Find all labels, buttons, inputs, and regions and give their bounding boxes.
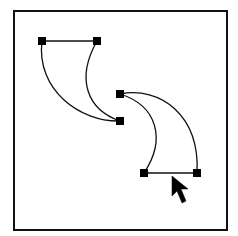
path-2-outer-curve (120, 93, 197, 173)
path-2[interactable] (120, 93, 197, 173)
anchor-point[interactable] (116, 90, 124, 98)
diagram-canvas (0, 0, 238, 236)
path-2-anchors[interactable] (116, 90, 201, 177)
anchor-point[interactable] (116, 117, 124, 125)
path-1-outer-curve (41, 41, 120, 121)
anchor-point[interactable] (38, 37, 46, 45)
anchor-point[interactable] (193, 169, 201, 177)
anchor-point[interactable] (93, 37, 101, 45)
anchor-point[interactable] (140, 169, 148, 177)
arrow-pointer-icon (172, 176, 188, 203)
path-1[interactable] (41, 41, 120, 121)
path-2-inner-curve (120, 94, 156, 173)
path-1-inner-curve (86, 41, 120, 121)
